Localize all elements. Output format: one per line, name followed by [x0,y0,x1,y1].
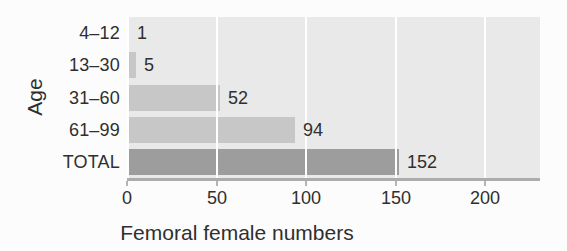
bar-31-60 [127,85,220,111]
y-tick-label: 4–12 [0,23,120,44]
value-label: 52 [228,87,248,108]
x-tick-label: 50 [207,188,227,209]
plot-panel [127,17,540,181]
value-label: 1 [137,23,147,44]
value-label: 94 [303,119,323,140]
bar-total [127,149,399,175]
x-tick-label: 0 [122,188,132,209]
gridline-x-50 [216,17,218,178]
x-tick-label: 200 [470,188,500,209]
x-tick-mark [305,181,307,186]
bar-chart-figure: Age 4–1213–3031–6061–99TOTAL 155294152 0… [0,0,567,251]
bar-61-99 [127,117,295,143]
gridline-x-0 [127,17,129,178]
value-label: 5 [144,55,154,76]
x-tick-label: 100 [291,188,321,209]
y-tick-label: 61–99 [0,119,120,140]
gridline-x-100 [305,17,307,178]
gridline-x-200 [484,17,486,178]
x-tick-label: 150 [381,188,411,209]
gridline-x-150 [395,17,397,178]
y-tick-label: 13–30 [0,55,120,76]
x-tick-mark [484,181,486,186]
value-label: 152 [407,151,437,172]
x-tick-mark [395,181,397,186]
x-tick-mark [216,181,218,186]
y-tick-label: TOTAL [0,151,120,172]
x-axis-title: Femoral female numbers [120,221,353,245]
x-tick-mark [126,181,128,186]
y-tick-label: 31–60 [0,87,120,108]
